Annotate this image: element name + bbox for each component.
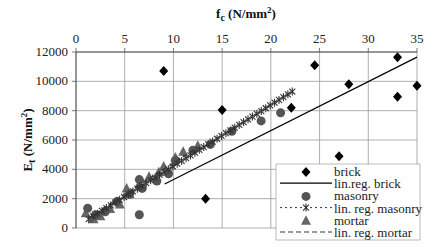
diamond-marker: [287, 103, 296, 113]
circle-marker: [135, 210, 144, 219]
diamond-marker: [393, 92, 402, 102]
x-tick-label: 5: [121, 31, 128, 46]
y-tick-label: 6000: [42, 132, 68, 147]
y-tick-labels: 020004000600080001000012000: [36, 44, 69, 235]
diamond-marker: [413, 81, 422, 91]
y-axis-title: Et (N/mm2): [19, 108, 37, 171]
y-tick-label: 0: [62, 220, 69, 235]
x-tick-label: 25: [313, 31, 326, 46]
diamond-marker: [159, 66, 168, 76]
x-axis-title: fc (N/mm2): [216, 5, 276, 23]
x-tick-label: 10: [167, 31, 180, 46]
circle-icon: [302, 192, 311, 201]
circle-marker: [257, 116, 266, 125]
x-tick-label: 35: [411, 31, 424, 46]
diamond-marker: [218, 105, 227, 115]
circle-marker: [83, 204, 92, 213]
x-tick-labels: 05101520253035: [73, 31, 424, 46]
diamond-marker: [310, 60, 319, 70]
diamond-marker: [344, 79, 353, 89]
diamond-marker: [393, 52, 402, 62]
y-tick-label: 2000: [42, 191, 68, 206]
y-tick-label: 8000: [42, 103, 68, 118]
series-lin-reg-masonry: [86, 88, 296, 224]
legend-label: lin. reg. mortar: [334, 225, 413, 240]
x-tick-label: 15: [216, 31, 229, 46]
chart: 05101520253035 0200040006000800010000120…: [0, 0, 442, 252]
diamond-marker: [335, 151, 344, 161]
y-tick-label: 4000: [42, 161, 68, 176]
x-tick-label: 20: [264, 31, 277, 46]
x-tick-label: 30: [362, 31, 375, 46]
y-tick-label: 10000: [36, 73, 69, 88]
x-tick-label: 0: [73, 31, 80, 46]
legend: bricklin.reg. brickmasonrylin. reg. maso…: [276, 164, 423, 240]
circle-marker: [276, 108, 285, 117]
y-tick-label: 12000: [36, 44, 69, 59]
diamond-marker: [201, 194, 210, 204]
